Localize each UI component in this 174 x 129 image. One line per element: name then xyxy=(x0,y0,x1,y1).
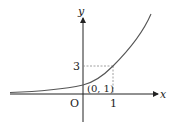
x-tick-label: 1 xyxy=(110,97,117,110)
point-label: (0, 1) xyxy=(87,83,114,94)
y-axis-label: y xyxy=(77,5,85,18)
exponential-curve xyxy=(10,14,151,93)
exponential-graph: y x O 1 3 (0, 1) xyxy=(0,0,174,129)
y-tick-label: 3 xyxy=(73,60,80,73)
origin-label: O xyxy=(70,97,79,110)
x-axis-label: x xyxy=(160,88,167,101)
